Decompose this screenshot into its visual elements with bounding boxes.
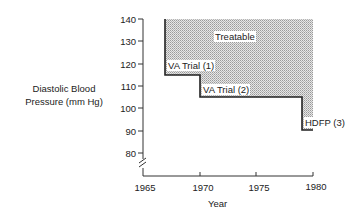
- x-tick-1980: 1980: [305, 181, 326, 192]
- x-tick-labels: 1965 1970 1975 1980: [134, 181, 326, 193]
- y-axis-title: Diastolic Blood Pressure (mm Hg): [18, 82, 110, 108]
- y-axis-title-line1: Diastolic Blood: [18, 82, 110, 95]
- chart-canvas: 140 130 120 110 100 90 80 1965 1970 1975…: [0, 0, 362, 217]
- y-ticks: [138, 19, 143, 153]
- x-tick-1975: 1975: [248, 182, 269, 193]
- va-trial-1-label: VA Trial (1): [167, 60, 215, 71]
- y-tick-120: 120: [120, 59, 136, 70]
- y-tick-labels: 140 130 120 110 100 90 80: [120, 14, 136, 159]
- va-trial-2-label: VA Trial (2): [202, 84, 250, 95]
- axis-break-icon: [139, 158, 146, 167]
- y-tick-90: 90: [125, 126, 136, 137]
- x-axis-title: Year: [208, 198, 227, 209]
- treatable-label: Treatable: [214, 31, 256, 42]
- y-tick-130: 130: [120, 36, 136, 47]
- y-axis-title-line2: Pressure (mm Hg): [18, 95, 110, 108]
- y-tick-80: 80: [125, 148, 136, 159]
- hdfp-label: HDFP (3): [304, 117, 346, 128]
- x-ticks: [200, 172, 313, 176]
- y-tick-140: 140: [120, 14, 136, 25]
- x-tick-1970: 1970: [192, 182, 213, 193]
- y-tick-100: 100: [120, 103, 136, 114]
- y-tick-110: 110: [121, 81, 136, 92]
- x-tick-1965: 1965: [134, 182, 155, 193]
